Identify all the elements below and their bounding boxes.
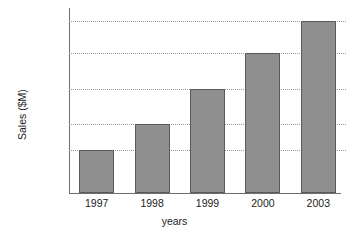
- x-axis-tick-label: 2000: [233, 197, 293, 209]
- x-axis-tick-label: 1998: [122, 197, 182, 209]
- x-axis-tick-label: 2003: [288, 197, 348, 209]
- bar: [135, 124, 170, 193]
- bar: [301, 21, 336, 193]
- bar: [245, 53, 280, 193]
- bar-series: [69, 8, 346, 193]
- y-axis-title: Sales ($M): [16, 89, 28, 140]
- x-axis-tick-label: 1999: [178, 197, 238, 209]
- plot-area: [69, 8, 346, 193]
- x-axis-tick-label: 1997: [67, 197, 127, 209]
- bar: [190, 89, 225, 193]
- bar: [79, 150, 114, 193]
- x-axis-title: years: [0, 215, 349, 227]
- x-axis-line: [69, 193, 341, 194]
- bar-chart: Sales ($M) 18,20016,72415,74815,09414,82…: [0, 0, 349, 251]
